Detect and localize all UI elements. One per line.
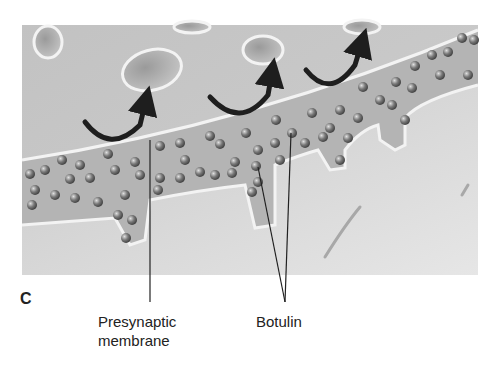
label-line: membrane	[98, 331, 176, 350]
botulin-label: Botulin	[256, 312, 302, 331]
panel-label: C	[20, 290, 32, 308]
label-line: Presynaptic	[98, 312, 176, 331]
presynaptic-membrane-label: Presynaptic membrane	[98, 312, 176, 350]
botulin-diagram	[0, 0, 494, 370]
